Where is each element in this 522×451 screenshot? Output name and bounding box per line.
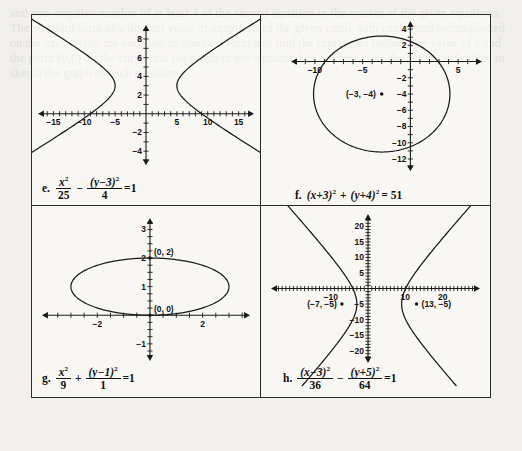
- vertex-point-label: (13, −5): [422, 299, 452, 309]
- y-axis-tick-label: −20: [350, 346, 365, 356]
- panel-e-equals: =1: [124, 182, 136, 194]
- y-axis-up-arrow-icon: [147, 218, 153, 224]
- y-axis-tick-label: 20: [355, 221, 365, 231]
- x-axis-tick-label: 2: [200, 319, 205, 329]
- y-axis-up-arrow-icon: [365, 214, 371, 220]
- panel-e: −15−10−5510158642−2−4 e. x2 25 − (y−3)2 …: [32, 15, 261, 206]
- y-axis-tick-label: 15: [355, 237, 365, 247]
- x-axis-tick-label: 5: [456, 65, 461, 75]
- panel-f-operator: +: [338, 189, 349, 201]
- y-axis-tick-label: −4: [397, 89, 407, 99]
- y-axis-tick-label: 6: [137, 53, 142, 63]
- y-axis-tick-label: −1: [136, 339, 146, 349]
- math-figure-grid: −15−10−5510158642−2−4 e. x2 25 − (y−3)2 …: [31, 14, 491, 398]
- vertex-point-marker: [148, 256, 151, 259]
- panel-h: −1010202015105−5−10−15−20(−7, −5)(13, −5…: [261, 206, 490, 397]
- vertex-point-marker: [415, 302, 418, 305]
- y-axis-tick-label: 2: [402, 40, 407, 50]
- panel-g-equals: =1: [123, 372, 135, 384]
- y-axis-tick-label: 8: [137, 34, 142, 44]
- x-axis-right-arrow-icon: [244, 312, 250, 318]
- panel-f-plot: −10−5542−2−4−6−8−10−12(−3, −4): [261, 15, 490, 205]
- y-axis-down-arrow-icon: [147, 355, 153, 361]
- x-axis-right-arrow-icon: [474, 285, 480, 291]
- y-axis-tick-label: −10: [350, 315, 365, 325]
- y-axis-down-arrow-icon: [407, 165, 413, 171]
- panel-g-term1: x2 9: [56, 366, 71, 391]
- panel-h-equation: h. (x−3)2 36 − (y+5)2 64 =1: [283, 366, 397, 391]
- y-axis-up-arrow-icon: [407, 21, 413, 27]
- panel-h-operator: −: [335, 372, 346, 384]
- x-axis-tick-label: −5: [110, 117, 120, 127]
- panel-f-label: f.: [295, 189, 302, 201]
- panel-e-term1: x2 25: [55, 176, 73, 201]
- panel-h-equals: =1: [384, 372, 396, 384]
- center-point-label: (−3, −4): [346, 89, 376, 99]
- panel-f-term2: (y+4)2: [351, 188, 380, 201]
- y-axis-tick-label: −12: [392, 154, 407, 164]
- y-axis-tick-label: 2: [137, 90, 142, 100]
- panel-h-label: h.: [283, 372, 292, 384]
- panel-g-equation: g. x2 9 + (y−1)2 1 =1: [42, 366, 135, 391]
- panel-e-label: e.: [42, 182, 50, 194]
- y-axis-tick-label: 5: [359, 268, 364, 278]
- panel-f: −10−5542−2−4−6−8−10−12(−3, −4) f. (x+3)2…: [261, 15, 490, 206]
- y-axis-down-arrow-icon: [365, 357, 371, 363]
- hyperbola-branch: [32, 15, 115, 178]
- x-axis-left-arrow-icon: [42, 312, 48, 318]
- hyperbola-branch: [274, 206, 357, 386]
- vertex-point-marker: [148, 314, 151, 317]
- y-axis-tick-label: 10: [355, 252, 365, 262]
- vertex-point-label: (0, 0): [154, 304, 174, 314]
- panel-e-term2: (y−3)2 4: [87, 176, 122, 201]
- x-axis-tick-label: 15: [234, 117, 244, 127]
- panel-h-term2: (y+5)2 64: [348, 366, 383, 391]
- y-axis-tick-label: 1: [141, 282, 146, 292]
- panel-f-term1: (x+3)2: [307, 188, 336, 201]
- x-axis-tick-label: 5: [175, 117, 180, 127]
- y-axis-tick-label: −8: [397, 122, 407, 132]
- center-point-marker: [380, 92, 384, 96]
- panel-e-operator: −: [74, 182, 85, 194]
- x-axis-tick-label: −15: [46, 117, 61, 127]
- vertex-point-label: (0, 2): [154, 247, 174, 257]
- panel-e-equation: e. x2 25 − (y−3)2 4 =1: [42, 176, 136, 201]
- panel-g-term2: (y−1)2 1: [86, 366, 121, 391]
- y-axis-tick-label: −2: [397, 73, 407, 83]
- panel-g: −22321−1(0, 2)(0, 0) g. x2 9 + (y−1)2 1 …: [32, 206, 261, 397]
- y-axis-tick-label: −10: [392, 138, 407, 148]
- y-axis-tick-label: 4: [137, 71, 142, 81]
- x-axis-tick-label: −5: [358, 65, 368, 75]
- panel-g-operator: +: [73, 372, 84, 384]
- panel-f-equation: f. (x+3)2 + (y+4)2 = 51: [295, 188, 402, 201]
- y-axis-tick-label: −6: [397, 105, 407, 115]
- y-axis-tick-label: −15: [350, 330, 365, 340]
- x-axis-right-arrow-icon: [248, 111, 254, 117]
- x-axis-tick-label: −2: [92, 319, 102, 329]
- y-axis-tick-label: −2: [132, 127, 142, 137]
- vertex-point-marker: [340, 302, 343, 305]
- y-axis-tick-label: 3: [141, 224, 146, 234]
- x-axis-left-arrow-icon: [271, 285, 277, 291]
- x-axis-left-arrow-icon: [38, 111, 44, 117]
- y-axis-tick-label: 4: [402, 24, 407, 34]
- panel-f-equals: = 51: [381, 189, 402, 201]
- panel-g-label: g.: [42, 372, 51, 384]
- y-axis-tick-label: −5: [354, 299, 364, 309]
- y-axis-tick-label: −4: [132, 146, 142, 156]
- panel-h-term1: (x−3)2 36: [297, 366, 333, 391]
- hyperbola-branch: [177, 15, 260, 178]
- vertex-point-label: (−7, −5): [307, 299, 337, 309]
